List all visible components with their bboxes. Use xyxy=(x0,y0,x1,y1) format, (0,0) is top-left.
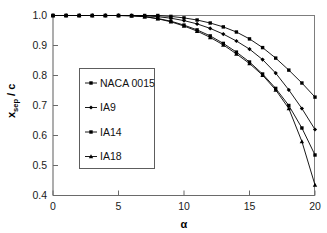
series-marker xyxy=(313,153,316,156)
y-tick-label: 0.5 xyxy=(32,159,47,171)
legend-label: NACA 0015 xyxy=(100,77,155,89)
series-marker xyxy=(300,126,303,129)
y-tick-label: 0.9 xyxy=(32,39,47,51)
x-axis-ticks: 05101520 xyxy=(50,191,321,212)
x-tick-label: 5 xyxy=(116,200,122,212)
series-marker xyxy=(274,56,277,59)
legend-label: IA18 xyxy=(100,150,122,162)
y-axis-ticks: 0.40.50.60.70.80.91.0 xyxy=(32,9,58,201)
legend-label: IA9 xyxy=(100,101,116,113)
y-tick-label: 0.4 xyxy=(32,189,47,201)
series-marker xyxy=(234,39,238,43)
y-axis-title: xsep / c xyxy=(5,84,20,118)
y-tick-label: 0.7 xyxy=(32,99,47,111)
series-marker xyxy=(89,130,92,133)
series-marker xyxy=(209,21,212,24)
series-marker xyxy=(221,32,225,36)
series-marker xyxy=(208,26,212,30)
x-axis-title-text: α xyxy=(181,218,188,230)
series-marker xyxy=(222,25,225,28)
y-tick-label: 0.8 xyxy=(32,69,47,81)
series-marker xyxy=(195,22,199,26)
chart-figure: 0.40.50.60.70.80.91.0 05101520 xsep / c … xyxy=(0,0,327,233)
series-marker xyxy=(313,95,316,98)
y-tick-label: 0.6 xyxy=(32,129,47,141)
chart-canvas: 0.40.50.60.70.80.91.0 05101520 xsep / c … xyxy=(0,0,327,233)
series-marker xyxy=(287,68,290,71)
series-marker xyxy=(261,46,264,49)
x-tick-label: 20 xyxy=(309,200,321,212)
series-marker xyxy=(195,18,198,21)
x-tick-label: 10 xyxy=(178,200,190,212)
series-marker xyxy=(300,81,303,84)
x-tick-label: 0 xyxy=(50,200,56,212)
series-marker xyxy=(300,139,304,143)
chart-legend: NACA 0015IA9IA14IA18 xyxy=(80,69,156,169)
y-axis-title-text: xsep / c xyxy=(5,84,20,118)
series-marker xyxy=(248,37,251,40)
legend-label: IA14 xyxy=(100,126,122,138)
series-marker xyxy=(89,81,92,84)
series-marker xyxy=(313,183,317,187)
y-tick-label: 1.0 xyxy=(32,9,47,21)
x-tick-label: 15 xyxy=(244,200,256,212)
series-marker xyxy=(313,127,317,131)
series-marker xyxy=(235,30,238,33)
